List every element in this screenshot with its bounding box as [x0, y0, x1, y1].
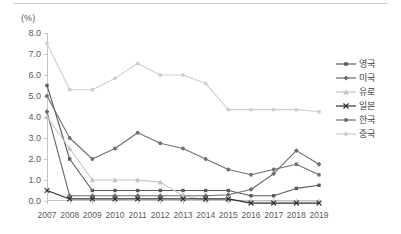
data-point-circle	[68, 88, 72, 92]
series-영국	[45, 84, 320, 198]
x-tick-label: 2010	[106, 211, 125, 220]
figure-top-divider	[14, 3, 388, 4]
data-point-circle	[294, 162, 298, 166]
y-tick-label: 1.0	[28, 176, 41, 185]
x-tick-mark	[138, 201, 139, 204]
data-point-circle	[317, 110, 321, 114]
data-point-x	[45, 188, 50, 193]
legend-item-유로[interactable]: 유로	[335, 85, 397, 99]
data-point-diamond	[317, 162, 322, 167]
data-point-circle	[272, 108, 276, 112]
x-tick-label: 2017	[264, 211, 283, 220]
series-line	[47, 86, 319, 196]
data-point-square	[344, 62, 348, 66]
data-point-square	[295, 187, 298, 190]
data-point-circle	[136, 62, 140, 66]
data-point-square	[317, 184, 320, 187]
data-point-circle	[344, 118, 348, 122]
data-point-diamond	[226, 192, 231, 197]
legend-label: 영국	[357, 58, 375, 70]
data-point-circle	[181, 73, 185, 77]
x-tick-label: 2012	[151, 211, 170, 220]
data-point-circle	[136, 131, 140, 135]
data-point-square	[272, 194, 275, 197]
line-chart-figure: (%) 0.01.02.03.04.05.06.07.08.0 20072008…	[0, 0, 401, 234]
data-point-circle	[113, 147, 117, 151]
data-point-circle	[204, 82, 208, 86]
x-tick-label: 2015	[219, 211, 238, 220]
y-tick-label: 0.0	[28, 197, 41, 206]
legend-item-미국[interactable]: 미국	[335, 71, 397, 85]
y-tick-label: 2.0	[28, 155, 41, 164]
data-point-square	[159, 189, 162, 192]
data-point-circle	[68, 136, 72, 140]
series-line	[47, 112, 319, 196]
chart-legend: 영국미국유로일본한국중국	[335, 57, 397, 141]
x-tick-mark	[47, 201, 48, 204]
data-point-circle	[181, 147, 185, 151]
x-tick-mark	[70, 201, 71, 204]
data-point-circle	[226, 168, 230, 172]
data-point-circle	[90, 88, 94, 92]
x-tick-mark	[183, 201, 184, 204]
data-point-diamond	[45, 109, 50, 114]
data-point-circle	[317, 173, 321, 177]
y-tick-label: 5.0	[28, 92, 41, 101]
y-tick-label: 3.0	[28, 134, 41, 143]
data-point-circle	[45, 94, 49, 98]
x-tick-label: 2007	[38, 211, 57, 220]
data-point-square	[45, 84, 48, 87]
x-tick-label: 2008	[60, 211, 79, 220]
legend-label: 한국	[357, 114, 375, 126]
data-point-square	[249, 194, 252, 197]
legend-item-영국[interactable]: 영국	[335, 57, 397, 71]
legend-item-한국[interactable]: 한국	[335, 113, 397, 127]
legend-marker-icon	[335, 58, 357, 70]
data-point-diamond	[343, 75, 348, 80]
x-tick-label: 2014	[196, 211, 215, 220]
data-point-square	[136, 189, 139, 192]
series-한국	[45, 94, 321, 177]
y-axis-unit-label: (%)	[21, 13, 35, 23]
data-point-circle	[249, 108, 253, 112]
x-tick-label: 2018	[287, 211, 306, 220]
data-point-square	[181, 189, 184, 192]
y-tick-label: 7.0	[28, 50, 41, 59]
data-point-square	[91, 189, 94, 192]
legend-marker-icon	[335, 100, 357, 112]
data-point-circle	[249, 173, 253, 177]
data-point-circle	[45, 42, 49, 46]
data-point-circle	[226, 108, 230, 112]
x-tick-label: 2011	[129, 211, 147, 220]
x-tick-mark	[92, 201, 93, 204]
data-point-square	[68, 157, 71, 160]
legend-label: 미국	[357, 72, 375, 84]
x-tick-label: 2019	[310, 211, 329, 220]
legend-label: 중국	[357, 128, 375, 140]
legend-item-일본[interactable]: 일본	[335, 99, 397, 113]
data-point-circle	[344, 132, 348, 136]
data-point-circle	[294, 108, 298, 112]
legend-marker-icon	[335, 72, 357, 84]
y-tick-label: 4.0	[28, 113, 41, 122]
data-point-square	[227, 189, 230, 192]
legend-label: 일본	[357, 100, 375, 112]
data-point-circle	[204, 157, 208, 161]
x-tick-label: 2013	[174, 211, 193, 220]
y-tick-label: 6.0	[28, 71, 41, 80]
data-point-square	[204, 189, 207, 192]
y-tick-label: 8.0	[28, 29, 41, 38]
x-tick-label: 2016	[242, 211, 261, 220]
data-point-circle	[158, 141, 162, 145]
series-layer	[47, 33, 319, 201]
legend-marker-icon	[335, 86, 357, 98]
series-line	[47, 117, 319, 201]
x-tick-mark	[115, 201, 116, 204]
data-point-circle	[272, 168, 276, 172]
data-point-circle	[113, 76, 117, 80]
x-tick-mark	[160, 201, 161, 204]
series-line	[47, 44, 319, 112]
legend-item-중국[interactable]: 중국	[335, 127, 397, 141]
series-중국	[45, 42, 321, 114]
legend-label: 유로	[357, 86, 375, 98]
